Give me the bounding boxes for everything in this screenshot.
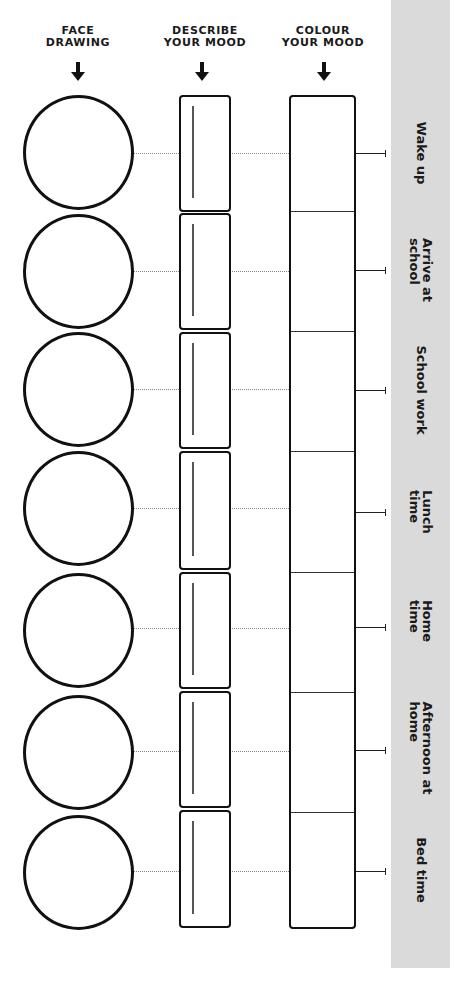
writing-line <box>192 462 194 556</box>
connector-line <box>232 628 289 629</box>
describe-mood-box-school-work[interactable] <box>179 332 231 449</box>
face-drawing-circle-school-work[interactable] <box>23 332 134 447</box>
writing-line <box>192 821 194 914</box>
face-drawing-circle-wake-up[interactable] <box>23 95 134 210</box>
connector-line <box>133 389 179 390</box>
describe-mood-box-wake-up[interactable] <box>179 95 231 212</box>
label-tick <box>356 750 385 751</box>
time-label-line1: Afternoon at <box>421 701 434 794</box>
describe-mood-box-home-time[interactable] <box>179 572 231 689</box>
time-label-line1: Lunch <box>421 490 434 534</box>
header-colour-line2: YOUR MOOD <box>268 37 378 49</box>
connector-line <box>133 628 179 629</box>
writing-line <box>192 583 194 675</box>
label-tick <box>356 390 385 391</box>
describe-mood-box-lunch-time[interactable] <box>179 451 231 570</box>
colour-divider <box>291 211 354 212</box>
connector-line <box>232 271 289 272</box>
label-tick <box>356 512 385 513</box>
arrow-down-icon <box>194 62 210 82</box>
header-describe-mood: DESCRIBE YOUR MOOD <box>150 25 260 49</box>
colour-divider <box>291 331 354 332</box>
describe-mood-box-bed-time[interactable] <box>179 810 231 928</box>
connector-line <box>133 871 179 872</box>
label-tick <box>356 871 385 872</box>
label-tick <box>356 270 385 271</box>
time-label-line1: School work <box>414 345 427 434</box>
header-face-drawing: FACE DRAWING <box>38 25 118 49</box>
connector-line <box>232 751 289 752</box>
time-label-line2: school <box>408 238 421 302</box>
colour-divider <box>291 451 354 452</box>
connector-line <box>133 153 179 154</box>
header-describe-line2: YOUR MOOD <box>150 37 260 49</box>
face-drawing-circle-home-time[interactable] <box>23 573 134 688</box>
header-face-line2: DRAWING <box>38 37 118 49</box>
connector-line <box>133 508 179 509</box>
arrow-down-icon <box>70 62 86 82</box>
time-label-line2: time <box>408 490 421 534</box>
connector-line <box>133 271 179 272</box>
face-drawing-circle-afternoon-at-home[interactable] <box>23 695 134 810</box>
time-label-line2: home <box>408 701 421 794</box>
face-drawing-circle-lunch-time[interactable] <box>23 451 134 566</box>
face-drawing-circle-bed-time[interactable] <box>23 815 134 930</box>
writing-line <box>192 702 194 794</box>
colour-divider <box>291 812 354 813</box>
connector-line <box>133 751 179 752</box>
writing-line <box>192 343 194 435</box>
colour-divider <box>291 692 354 693</box>
describe-mood-box-afternoon-at-home[interactable] <box>179 691 231 808</box>
colour-mood-column[interactable] <box>289 95 356 929</box>
time-label-line2: time <box>408 600 421 642</box>
writing-line <box>192 106 194 198</box>
time-label-line1: Bed time <box>414 837 427 903</box>
writing-line <box>192 224 194 316</box>
time-label-line1: Arrive at <box>421 238 434 302</box>
label-tick <box>356 627 385 628</box>
connector-line <box>232 153 289 154</box>
header-colour-mood: COLOUR YOUR MOOD <box>268 25 378 49</box>
time-label-line1: Wake up <box>414 122 427 185</box>
time-label-line1: Home <box>421 600 434 642</box>
arrow-down-icon <box>316 62 332 82</box>
connector-line <box>232 389 289 390</box>
connector-line <box>232 871 289 872</box>
face-drawing-circle-arrive-at-school[interactable] <box>23 214 134 329</box>
label-tick <box>356 153 385 154</box>
time-of-day-sidebar: Wake up Arrive at school School work Lun… <box>391 0 450 968</box>
colour-divider <box>291 572 354 573</box>
describe-mood-box-arrive-at-school[interactable] <box>179 213 231 330</box>
connector-line <box>232 508 289 509</box>
